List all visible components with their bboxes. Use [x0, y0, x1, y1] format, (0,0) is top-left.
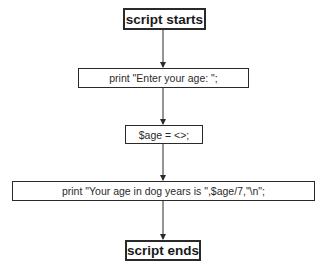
node-label: $age = <>;	[139, 129, 190, 141]
node-label: print "Enter your age: ";	[109, 72, 217, 84]
node-label: script ends	[127, 243, 199, 258]
node-print-prompt: print "Enter your age: ";	[78, 68, 249, 88]
node-label: print "Your age in dog years is ",$age/7…	[62, 185, 265, 197]
node-label: script starts	[126, 12, 203, 27]
node-script-starts: script starts	[123, 8, 206, 30]
node-print-dog-years: print "Your age in dog years is ",$age/7…	[12, 181, 315, 201]
node-read-age: $age = <>;	[125, 125, 203, 144]
node-script-ends: script ends	[125, 240, 201, 261]
